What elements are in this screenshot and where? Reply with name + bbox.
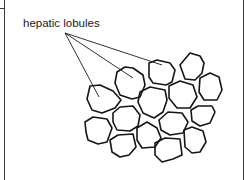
lobule-j (191, 106, 215, 126)
lobule-n (155, 138, 182, 162)
lobule-g (169, 81, 197, 108)
label-hepatic-lobules: hepatic lobules (23, 17, 100, 29)
lobule-m (137, 122, 161, 148)
hepatic-lobules-diagram: hepatic lobules (0, 0, 245, 180)
lobule-e (199, 73, 222, 100)
lobule-c (149, 60, 175, 85)
lobule-f (138, 87, 167, 118)
lobule-k (85, 117, 112, 144)
lobule-o (184, 127, 206, 153)
lobule-d (180, 53, 204, 80)
lobule-l (110, 134, 136, 157)
lobule-a (87, 85, 121, 113)
lobules-group (85, 53, 222, 162)
lobule-b (115, 67, 145, 99)
pointer-line-b (65, 33, 133, 78)
lobule-h (113, 106, 140, 131)
